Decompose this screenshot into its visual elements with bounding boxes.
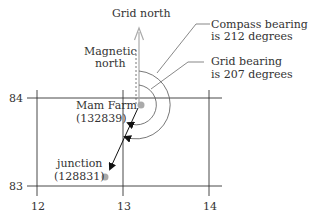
easting-13-label: 13 [117, 200, 131, 213]
northing-83-label: 83 [9, 180, 23, 193]
mam-farm-name: Mam Farm [76, 99, 137, 112]
mam-farm-ref: (132839) [76, 112, 127, 125]
bearing-diagram: 84 83 12 13 14 Grid north Magnetic north… [0, 0, 310, 221]
easting-12-label: 12 [31, 200, 45, 213]
easting-14-label: 14 [203, 200, 217, 213]
grid-bearing-leader [151, 62, 204, 89]
grid-bearing-label-line2: is 207 degrees [211, 68, 293, 81]
junction-name: junction [55, 157, 102, 170]
northing-84-label: 84 [9, 92, 23, 105]
junction-ref: (128831) [54, 170, 105, 183]
grid-north-label: Grid north [112, 7, 171, 20]
magnetic-north-label-line2: north [95, 57, 125, 70]
grid-bearing-label-line1: Grid bearing [211, 55, 282, 68]
compass-bearing-label-line2: is 212 degrees [211, 30, 293, 43]
mam-farm-point [138, 102, 145, 109]
